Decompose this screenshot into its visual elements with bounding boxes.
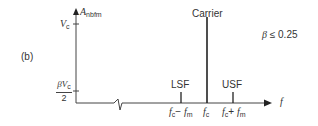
panel-label: (b) [21,52,33,62]
y-tick-label-beta-vc-half: βVc 2 [56,79,72,103]
spectrum-diagram [0,0,318,126]
x-tick-label-fc: fc [203,107,209,120]
x-axis-arrow-icon [264,100,272,107]
x-tick-label-fc-minus-fm: fc− fm [169,107,193,120]
carrier-label: Carrier [192,9,223,19]
y-axis-arrow-icon [73,8,79,15]
condition-label: β ≤ 0.25 [262,30,298,40]
x-axis-label: f [280,97,283,107]
x-tick-label-fc-plus-fm: fc+ fm [222,107,246,120]
usf-label: USF [222,80,242,90]
y-tick-label-vc: Vc [60,19,70,32]
y-axis-label: Anbfm [80,7,102,20]
lsf-label: LSF [171,80,189,90]
